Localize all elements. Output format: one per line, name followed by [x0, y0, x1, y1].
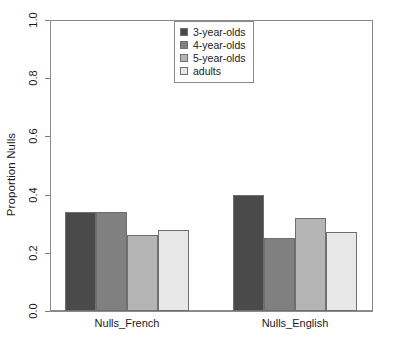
y-tick-text: 1.0: [26, 12, 40, 27]
bar-nulls-english-3-year-olds: [233, 195, 264, 311]
legend-swatch-icon: [180, 54, 188, 62]
y-tick-label: 0.2: [20, 246, 46, 260]
y-tick-text: 0.8: [26, 70, 40, 85]
x-tick-label-nulls-french: Nulls_French: [67, 317, 187, 329]
y-axis-tick-labels: 1.0 0.8 0.6 0.4 0.2 0.0: [18, 0, 46, 349]
bar-nulls-english-4-year-olds: [264, 238, 295, 311]
x-axis-spine: [50, 311, 373, 312]
legend-item-4-year-olds: 4-year-olds: [180, 39, 246, 51]
legend-swatch-icon: [180, 67, 188, 75]
legend-swatch-icon: [180, 41, 188, 49]
y-tick-text: 0.2: [26, 245, 40, 260]
legend-item-5-year-olds: 5-year-olds: [180, 52, 246, 64]
bar-nulls-french-4-year-olds: [96, 212, 127, 311]
bar-nulls-french-adults: [158, 230, 189, 312]
bar-chart: Proportion Nulls 1.0 0.8 0.6 0.4 0.2 0.0…: [0, 0, 393, 349]
y-tick-label: 1.0: [20, 13, 46, 27]
x-tick-label-nulls-english: Nulls_English: [235, 317, 355, 329]
legend-item-3-year-olds: 3-year-olds: [180, 26, 246, 38]
legend-label: 4-year-olds: [193, 40, 246, 51]
y-tick-text: 0.6: [26, 128, 40, 143]
legend-swatch-icon: [180, 28, 188, 36]
bar-nulls-english-adults: [326, 232, 357, 311]
bar-nulls-french-5-year-olds: [127, 235, 158, 311]
y-tick-text: 0.0: [26, 303, 40, 318]
y-tick-label: 0.4: [20, 188, 46, 202]
y-tick-text: 0.4: [26, 187, 40, 202]
legend-label: adults: [193, 66, 221, 77]
legend-item-adults: adults: [180, 65, 246, 77]
y-tick-label: 0.6: [20, 129, 46, 143]
bar-nulls-english-5-year-olds: [295, 218, 326, 311]
legend: 3-year-olds 4-year-olds 5-year-olds adul…: [174, 21, 254, 83]
legend-label: 5-year-olds: [193, 53, 246, 64]
y-tick-label: 0.8: [20, 71, 46, 85]
bar-nulls-french-3-year-olds: [65, 212, 96, 311]
y-tick-label: 0.0: [20, 304, 46, 318]
legend-label: 3-year-olds: [193, 27, 246, 38]
